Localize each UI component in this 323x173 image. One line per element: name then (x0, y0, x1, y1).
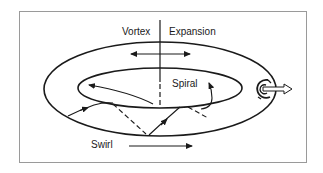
swirl-path-left-arrow (80, 108, 88, 111)
swirl-path-left (68, 103, 113, 116)
label-swirl: Swirl (91, 140, 113, 150)
label-vortex: Vortex (122, 27, 150, 37)
vortex-diagram: Vortex Expansion Spiral Swirl (0, 0, 323, 173)
outgoing-hollow-arrow-icon (263, 84, 292, 94)
label-spiral: Spiral (172, 79, 198, 89)
label-expansion: Expansion (169, 27, 216, 37)
swirl-path-dashed-down (113, 104, 146, 134)
swirl-path-up-arrow (161, 119, 167, 125)
